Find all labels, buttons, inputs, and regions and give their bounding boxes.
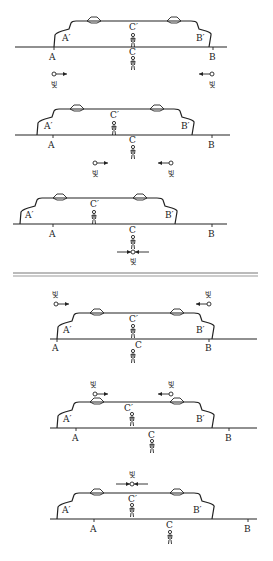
label-c: C bbox=[129, 47, 136, 57]
panel-5: A′ B′ A B C′ C 빛 빛 bbox=[50, 380, 257, 453]
light-label: 빛 bbox=[90, 380, 96, 389]
label-c-prime: C′ bbox=[90, 199, 99, 209]
label-a-prime: A′ bbox=[43, 121, 53, 131]
label-a-prime: A′ bbox=[24, 210, 34, 220]
panel-4: A′ B′ A B C′ C 빛 빛 bbox=[50, 290, 257, 363]
light-arrow-left-icon bbox=[158, 392, 173, 396]
section-divider bbox=[13, 273, 258, 276]
light-arrow-left-icon bbox=[199, 72, 214, 76]
label-a: A bbox=[48, 52, 56, 62]
observer-c bbox=[131, 235, 135, 249]
panel-2: A′ B′ A B C′ C 빛 빛 bbox=[15, 105, 230, 178]
label-b-prime: B′ bbox=[196, 325, 205, 335]
label-c-prime: C′ bbox=[124, 403, 133, 413]
light-converging-icon bbox=[117, 250, 149, 254]
light-label: 빛 bbox=[205, 290, 211, 299]
light-arrow-right-icon bbox=[54, 302, 69, 306]
label-a: A bbox=[48, 229, 56, 239]
light-arrow-right-icon bbox=[93, 392, 108, 396]
light-label: 빛 bbox=[130, 257, 136, 266]
label-a: A bbox=[51, 343, 59, 353]
label-b-prime: B′ bbox=[193, 505, 202, 515]
light-arrow-right-icon bbox=[52, 72, 67, 76]
observer-c bbox=[131, 145, 135, 159]
light-label: 빛 bbox=[209, 80, 215, 89]
label-c: C bbox=[129, 135, 136, 145]
label-b: B bbox=[225, 433, 232, 443]
light-label: 빛 bbox=[92, 169, 98, 178]
observer-c-prime bbox=[130, 503, 134, 517]
observer-c-prime bbox=[131, 324, 135, 338]
label-b-prime: B′ bbox=[196, 33, 205, 43]
label-c-prime: C′ bbox=[128, 494, 137, 504]
label-b: B bbox=[205, 343, 212, 353]
label-b-prime: B′ bbox=[196, 414, 205, 424]
label-a-prime: A′ bbox=[62, 414, 72, 424]
label-a-prime: A′ bbox=[61, 505, 71, 515]
label-b: B bbox=[208, 229, 215, 239]
label-c: C bbox=[166, 520, 173, 530]
light-label: 빛 bbox=[168, 380, 174, 389]
light-label: 빛 bbox=[51, 80, 57, 89]
observer-c bbox=[131, 56, 135, 70]
label-c-prime: C′ bbox=[129, 22, 138, 32]
light-converging-icon bbox=[116, 482, 148, 486]
panel-3: A′ B′ A B C′ C 빛 bbox=[13, 194, 227, 266]
label-a: A bbox=[47, 140, 55, 150]
light-label: 빛 bbox=[129, 470, 135, 479]
label-a: A bbox=[89, 524, 97, 534]
light-label: 빛 bbox=[52, 290, 58, 299]
label-b: B bbox=[208, 140, 215, 150]
label-c: C bbox=[135, 340, 142, 350]
light-arrow-left-icon bbox=[196, 302, 211, 306]
simultaneity-diagram: A′ B′ A B C′ C 빛 빛 A′ B′ A B C′ C 빛 빛 bbox=[0, 0, 273, 561]
label-c-prime: C′ bbox=[129, 314, 138, 324]
label-c-prime: C′ bbox=[110, 110, 119, 120]
label-b: B bbox=[244, 524, 251, 534]
observer-c bbox=[150, 439, 154, 453]
observer-c-prime bbox=[92, 210, 96, 224]
light-label: 빛 bbox=[168, 169, 174, 178]
observer-c-prime bbox=[130, 412, 134, 426]
light-arrow-left-icon bbox=[158, 161, 173, 165]
train bbox=[57, 398, 214, 428]
observer-c bbox=[168, 530, 172, 544]
label-c: C bbox=[148, 430, 155, 440]
label-a-prime: A′ bbox=[62, 325, 72, 335]
label-b-prime: B′ bbox=[165, 210, 174, 220]
label-a: A bbox=[71, 433, 79, 443]
observer-c-prime bbox=[112, 121, 116, 135]
light-arrow-right-icon bbox=[93, 161, 108, 165]
label-b-prime: B′ bbox=[181, 121, 190, 131]
observer-c bbox=[131, 349, 135, 363]
observer-c-prime bbox=[131, 33, 135, 47]
panel-1: A′ B′ A B C′ C 빛 빛 bbox=[15, 17, 227, 89]
label-b: B bbox=[209, 52, 216, 62]
label-c: C bbox=[129, 225, 136, 235]
panel-6: A′ B′ A B C′ C 빛 bbox=[50, 470, 257, 544]
label-a-prime: A′ bbox=[61, 33, 71, 43]
